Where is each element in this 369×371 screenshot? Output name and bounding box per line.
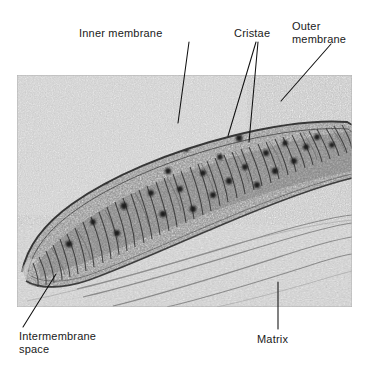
label-cristae: Cristae	[234, 27, 270, 40]
label-outer-membrane: Outer membrane	[292, 20, 346, 46]
mitochondrion-figure: Inner membrane Cristae Outer membrane In…	[0, 0, 369, 371]
label-inner-membrane: Inner membrane	[79, 27, 163, 40]
electron-micrograph-image	[17, 75, 352, 307]
label-matrix: Matrix	[257, 333, 288, 346]
label-intermembrane-space: Intermembrane space	[19, 330, 96, 356]
micrograph-canvas	[17, 75, 352, 307]
